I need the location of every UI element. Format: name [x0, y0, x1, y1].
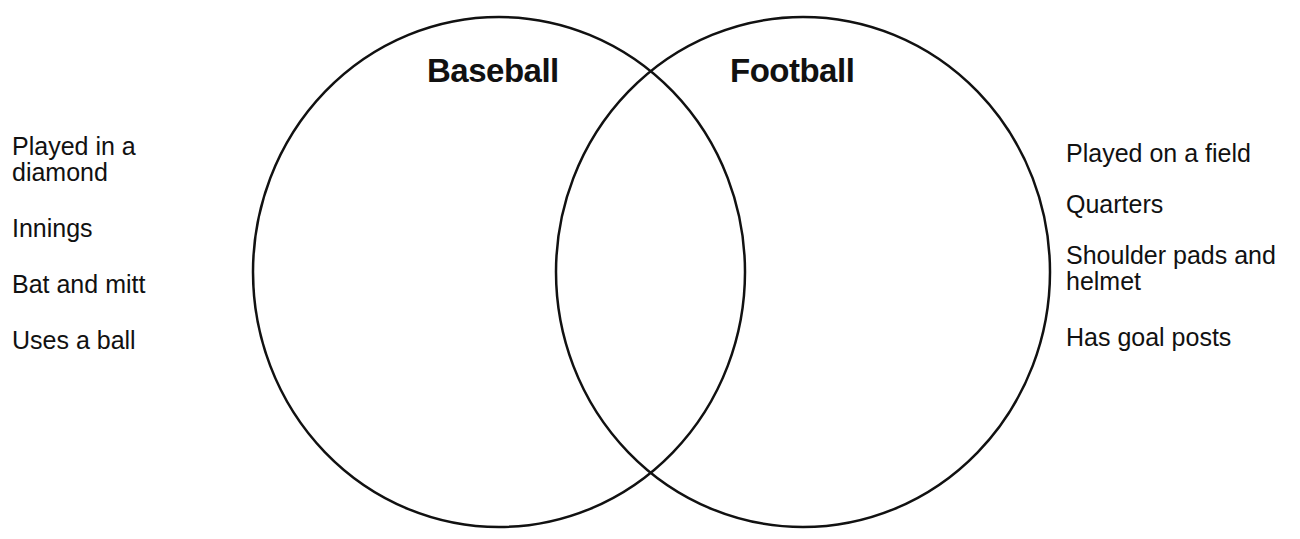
baseball-title: Baseball — [427, 52, 559, 90]
baseball-circle — [253, 17, 745, 527]
baseball-item: Played in a diamond — [12, 133, 182, 185]
baseball-item: Innings — [12, 215, 212, 241]
football-item: Quarters — [1066, 191, 1300, 217]
baseball-item: Uses a ball — [12, 327, 212, 353]
football-item: Shoulder pads and helmet — [1066, 242, 1276, 294]
baseball-item: Bat and mitt — [12, 271, 212, 297]
football-item: Played on a field — [1066, 140, 1300, 166]
baseball-list: Played in a diamond Innings Bat and mitt… — [12, 133, 212, 389]
football-title: Football — [730, 52, 854, 90]
football-item: Has goal posts — [1066, 324, 1300, 350]
football-circle — [556, 17, 1050, 527]
football-list: Played on a field Quarters Shoulder pads… — [1066, 140, 1300, 386]
